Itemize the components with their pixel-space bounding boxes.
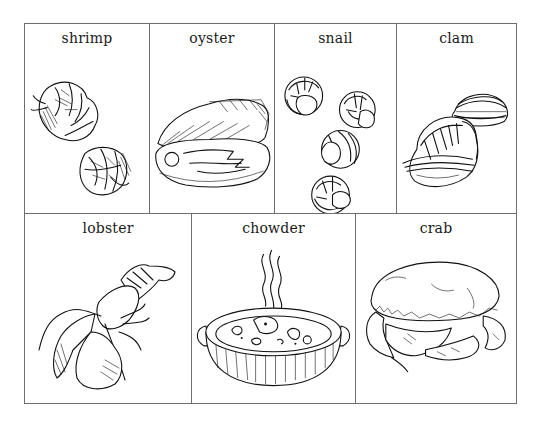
- cell-snail: snail: [274, 24, 396, 213]
- cell-chowder: chowder: [191, 214, 355, 403]
- grid-row-bottom: lobster: [25, 214, 516, 403]
- cell-label: shrimp: [25, 30, 149, 46]
- cell-label: lobster: [25, 220, 191, 236]
- oyster-illustration-icon: [150, 50, 274, 213]
- cell-label: crab: [356, 220, 516, 236]
- cell-lobster: lobster: [25, 214, 191, 403]
- lobster-illustration-icon: [25, 240, 191, 403]
- cell-label: chowder: [192, 220, 355, 236]
- shrimp-illustration-icon: [25, 50, 149, 213]
- cell-label: clam: [397, 30, 516, 46]
- cell-label: snail: [275, 30, 396, 46]
- cell-shrimp: shrimp: [25, 24, 149, 213]
- crab-illustration-icon: [356, 240, 516, 403]
- cell-clam: clam: [396, 24, 516, 213]
- snail-illustration-icon: [275, 50, 396, 213]
- picture-grid: shrimp: [24, 23, 517, 404]
- cell-label: oyster: [150, 30, 274, 46]
- cell-crab: crab: [355, 214, 516, 403]
- cell-oyster: oyster: [149, 24, 274, 213]
- grid-row-top: shrimp: [25, 24, 516, 214]
- clam-illustration-icon: [397, 50, 516, 213]
- chowder-illustration-icon: [192, 240, 355, 403]
